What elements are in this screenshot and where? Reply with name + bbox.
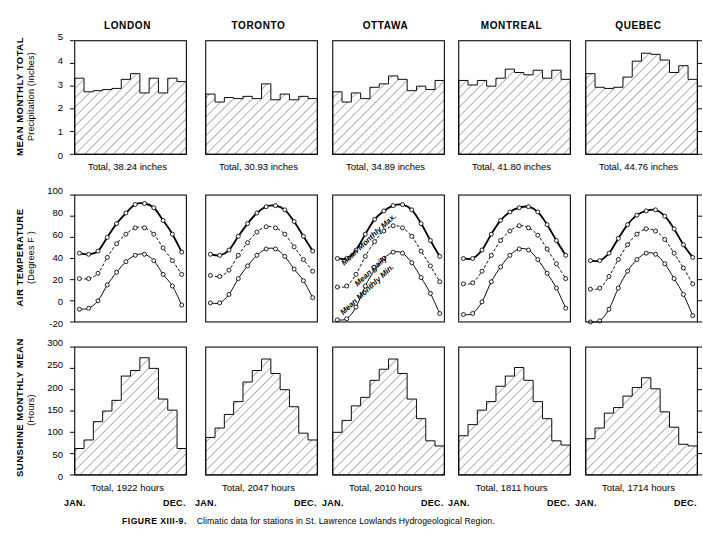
temperature-panel-montreal [453, 191, 570, 324]
precipitation-tick-0: 0 [31, 150, 63, 161]
sunshine-tick-250: 250 [31, 359, 63, 370]
precipitation-axis-title-line1: MEAN MONTHLY TOTAL [14, 37, 25, 156]
temperature-tick-neg20: -20 [31, 318, 63, 329]
month-end-london: DEC. [163, 498, 186, 508]
precipitation-panel-ottawa [327, 37, 444, 156]
precipitation-panel-london [69, 37, 186, 156]
sunshine-panel-montreal [453, 343, 570, 477]
climatic-data-figure: LONDON TORONTO OTTAWA MONTREAL QUEBEC ME… [0, 0, 703, 550]
precipitation-tick-1: 1 [31, 126, 63, 137]
sunshine-panel-toronto [200, 343, 317, 477]
month-end-montreal: DEC. [547, 498, 570, 508]
temperature-tick-60: 60 [31, 229, 63, 240]
curve-label-max: Mean Monthly Max. [339, 212, 398, 267]
precipitation-tick-5: 5 [31, 31, 63, 42]
temperature-panel-toronto [200, 191, 317, 324]
sunshine-panel-quebec [580, 343, 697, 477]
station-title-london: LONDON [69, 20, 186, 31]
sunshine-total-london: Total, 1922 hours [69, 482, 186, 493]
month-end-quebec: DEC. [674, 498, 697, 508]
month-start-ottawa: JAN. [322, 498, 344, 508]
temperature-tick-0: 0 [31, 296, 63, 307]
precipitation-panel-montreal [453, 37, 570, 156]
sunshine-panel-london [69, 343, 186, 477]
station-title-toronto: TORONTO [200, 20, 317, 31]
temperature-panel-london [69, 191, 186, 324]
precipitation-total-london: Total, 38.24 inches [69, 161, 186, 172]
sunshine-tick-300: 300 [31, 337, 63, 348]
precipitation-tick-3: 3 [31, 79, 63, 90]
figure-number: FIGURE XIII-9. [122, 516, 187, 526]
temperature-tick-100: 100 [31, 185, 63, 196]
sunshine-tick-100: 100 [31, 426, 63, 437]
precipitation-total-montreal: Total, 41.80 inches [453, 161, 570, 172]
sunshine-tick-200: 200 [31, 382, 63, 393]
figure-caption-text: Climatic data for stations in St. Lawren… [197, 516, 495, 526]
temperature-tick-40: 40 [31, 252, 63, 263]
month-start-london: JAN. [64, 498, 86, 508]
precipitation-tick-4: 4 [31, 55, 63, 66]
precipitation-panel-toronto [200, 37, 317, 156]
figure-caption: FIGURE XIII-9.Climatic data for stations… [122, 516, 495, 526]
temperature-panel-ottawa: Mean Monthly Max.Mean DailyMean Monthly … [327, 191, 444, 324]
sunshine-tick-150: 150 [31, 404, 63, 415]
precipitation-tick-2: 2 [31, 102, 63, 113]
station-title-quebec: QUEBEC [580, 20, 697, 31]
precipitation-total-quebec: Total, 44.76 inches [580, 161, 697, 172]
month-start-montreal: JAN. [448, 498, 470, 508]
sunshine-total-quebec: Total, 1714 hours [580, 482, 697, 493]
sunshine-axis-title-line1: SUNSHINE MONTHLY MEAN [14, 338, 25, 477]
month-end-ottawa: DEC. [421, 498, 444, 508]
sunshine-total-ottawa: Total, 2010 hours [327, 482, 444, 493]
station-title-ottawa: OTTAWA [327, 20, 444, 31]
temperature-panel-quebec [580, 191, 697, 324]
temperature-axis-title-line1: AIR TEMPERATURE [14, 208, 25, 306]
precipitation-panel-quebec [580, 37, 697, 156]
sunshine-panel-ottawa [327, 343, 444, 477]
sunshine-tick-0: 0 [31, 471, 63, 482]
sunshine-total-montreal: Total, 1811 hours [453, 482, 570, 493]
temperature-tick-80: 80 [31, 207, 63, 218]
month-start-quebec: JAN. [575, 498, 597, 508]
precipitation-total-toronto: Total, 30.93 inches [200, 161, 317, 172]
month-start-toronto: JAN. [195, 498, 217, 508]
station-title-montreal: MONTREAL [453, 20, 570, 31]
month-end-toronto: DEC. [294, 498, 317, 508]
precipitation-total-ottawa: Total, 34.89 inches [327, 161, 444, 172]
temperature-tick-20: 20 [31, 274, 63, 285]
sunshine-tick-50: 50 [31, 449, 63, 460]
sunshine-total-toronto: Total, 2047 hours [200, 482, 317, 493]
